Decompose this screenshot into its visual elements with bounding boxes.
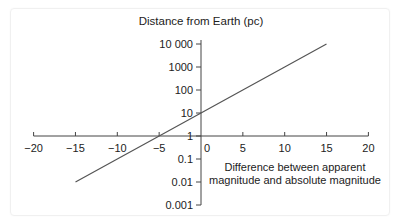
x-tick-label: 0 [204,142,210,154]
y-tick-label: 10 000 [159,38,193,50]
y-axis-label: Distance from Earth (pc) [139,15,264,27]
x-axis-label-line-1: Difference between apparent [224,161,365,173]
y-tick-label: 1000 [169,61,193,73]
x-tick-label: 15 [320,142,332,154]
x-tick-label: 10 [279,142,291,154]
x-axis-label-line-2: magnitude and absolute magnitude [209,174,381,186]
x-tick-label: 20 [362,142,374,154]
x-tick-label: −15 [66,142,85,154]
y-tick-label: 1 [187,130,193,142]
y-tick-label: 100 [175,84,193,96]
y-tick-label: 10 [181,107,193,119]
x-tick-label: −10 [108,142,127,154]
x-tick-label: 5 [240,142,246,154]
y-tick-label: 0.001 [165,199,193,211]
line-chart: −20−15−10−5051015200.0010.010.1110100100… [0,0,394,223]
x-tick-label: −20 [24,142,43,154]
x-tick-label: −5 [153,142,166,154]
y-tick-label: 0.01 [172,176,193,188]
y-tick-label: 0.1 [178,153,193,165]
